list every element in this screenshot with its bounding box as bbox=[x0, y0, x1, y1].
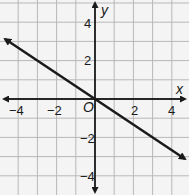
y-tick-label: −4 bbox=[80, 169, 95, 184]
y-tick-label: 2 bbox=[84, 53, 91, 68]
y-tick-label: 4 bbox=[84, 16, 91, 31]
x-tick-label: −4 bbox=[9, 103, 24, 118]
x-tick-label: −2 bbox=[47, 103, 62, 118]
origin-label: O bbox=[83, 99, 94, 115]
coordinate-plane: y x −4 −2 2 4 O 4 2 −2 −4 bbox=[0, 0, 189, 195]
x-tick-label: 4 bbox=[168, 103, 175, 118]
y-axis-label: y bbox=[100, 2, 109, 18]
y-tick-label: −2 bbox=[80, 131, 95, 146]
x-tick-label: 2 bbox=[131, 103, 138, 118]
x-axis-label: x bbox=[175, 81, 184, 97]
